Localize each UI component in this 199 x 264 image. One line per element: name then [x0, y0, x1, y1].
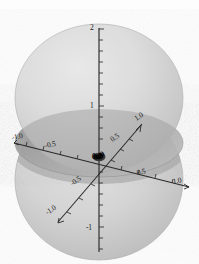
z-axis-tick-label-1: 1 [90, 102, 94, 110]
z-axis-tick-label-2: 2 [90, 24, 94, 32]
x-axis-tick-label-0-5: 0.5 [136, 167, 146, 176]
x-axis-tick-label-neg1-0: -1.0 [11, 132, 23, 141]
z-axis-tick-label-neg1: -1 [86, 224, 92, 232]
x-axis-tick-label-1-0: 1.0 [172, 176, 182, 185]
x-axis-tick-label-neg0-5: -0.5 [44, 140, 56, 149]
plot-canvas [0, 0, 199, 264]
plot-figure: 2 1 -1 -1.0 -0.5 0.5 1.0 -1.0 -0.5 0.5 1… [0, 0, 199, 264]
